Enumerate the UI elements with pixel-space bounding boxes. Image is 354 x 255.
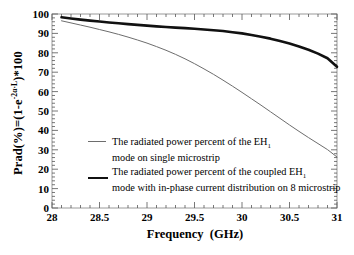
legend-series-1-subscript: 1: [268, 142, 272, 150]
chart-figure: Prad(%)=(1-e-2α·L)*100 01020304050607080…: [0, 0, 354, 255]
legend-entry-series-2: The radiated power percent of the couple…: [112, 166, 341, 194]
data-series-line-2: [62, 17, 338, 66]
plot-area: [0, 0, 354, 255]
legend-swatch-series-1: [88, 141, 106, 142]
legend-series-2-line-1: The radiated power percent of the couple…: [112, 166, 341, 182]
legend-entry-series-1: The radiated power percent of the EH1 mo…: [112, 136, 271, 164]
legend-series-2-line-2: mode with in-phase current distribution …: [112, 182, 341, 194]
legend-series-2-subscript: 1: [303, 172, 307, 180]
legend-swatch-series-2: [88, 177, 108, 179]
legend-series-1-line-2: mode on single microstrip: [112, 152, 271, 164]
x-axis-title: Frequency (GHz): [52, 227, 338, 242]
legend-series-1-line-1: The radiated power percent of the EH1: [112, 136, 271, 152]
legend-series-1-text-a: The radiated power percent of the EH: [112, 136, 268, 147]
legend-series-2-text-a: The radiated power percent of the couple…: [112, 166, 303, 177]
